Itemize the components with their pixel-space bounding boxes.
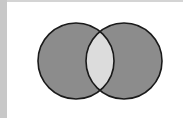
venn-diagram [0,0,183,118]
